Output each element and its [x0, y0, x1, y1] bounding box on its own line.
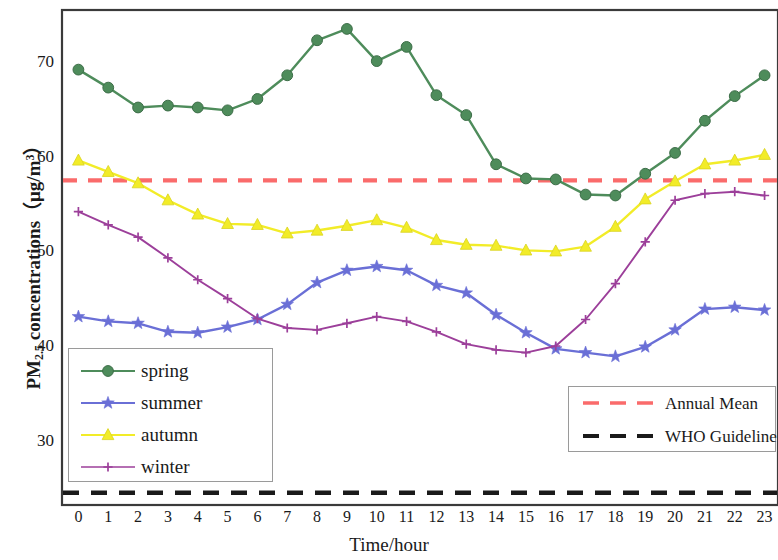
data-point: [372, 312, 381, 321]
data-point: [430, 279, 443, 291]
data-point: [162, 325, 175, 337]
data-point: [461, 110, 472, 121]
data-point: [432, 327, 441, 336]
legend-item-winter[interactable]: winter: [69, 451, 272, 483]
data-point: [639, 193, 651, 204]
legend-item-spring[interactable]: spring: [69, 355, 272, 387]
data-point: [730, 187, 739, 196]
x-tick-label: 11: [392, 508, 422, 526]
series-autumn: [73, 148, 771, 256]
data-point: [341, 264, 354, 276]
data-point: [550, 174, 561, 185]
data-point: [132, 317, 145, 329]
x-tick-label: 22: [720, 508, 750, 526]
x-tick-label: 2: [123, 508, 153, 526]
y-tick-label: 60: [14, 148, 54, 165]
data-point: [579, 346, 592, 358]
legend-item-summer[interactable]: summer: [69, 387, 272, 419]
y-tick-label: 40: [14, 337, 54, 354]
data-point: [462, 340, 471, 349]
x-tick-label: 6: [242, 508, 272, 526]
series-summer: [72, 260, 771, 362]
data-point: [580, 189, 591, 200]
x-tick-label: 19: [630, 508, 660, 526]
x-tick-label: 10: [362, 508, 392, 526]
x-tick-label: 9: [332, 508, 362, 526]
data-point: [700, 115, 711, 126]
legend-dashed-line-icon: [579, 389, 665, 419]
data-point: [103, 366, 114, 377]
data-point: [102, 396, 115, 408]
x-tick-label: 1: [93, 508, 123, 526]
x-tick-label: 13: [451, 508, 481, 526]
series-line-winter: [78, 192, 764, 353]
x-tick-label: 7: [272, 508, 302, 526]
x-tick-label: 16: [541, 508, 571, 526]
legend-label: spring: [141, 361, 189, 381]
data-point: [640, 168, 651, 179]
data-point: [521, 173, 532, 184]
data-point: [283, 323, 292, 332]
data-point: [192, 102, 203, 113]
pm25-diurnal-chart: PM2.5 concentrations（μg/m3） 7060504030 0…: [0, 0, 778, 560]
data-point: [729, 91, 740, 102]
legend-item-autumn[interactable]: autumn: [69, 419, 272, 451]
data-point: [700, 189, 709, 198]
data-point: [103, 82, 114, 93]
x-tick-label: 0: [63, 508, 93, 526]
data-point: [282, 70, 293, 81]
legend-item-annual-mean[interactable]: Annual Mean: [569, 387, 775, 420]
data-point: [72, 310, 85, 322]
legend-label: summer: [141, 393, 202, 413]
data-point: [759, 70, 770, 81]
x-tick-label: 15: [511, 508, 541, 526]
legend-label: winter: [141, 457, 190, 477]
data-point: [760, 191, 769, 200]
legend-marker-plus-icon: [75, 452, 141, 482]
data-point: [312, 35, 323, 46]
data-point: [162, 194, 174, 205]
legend-marker-circle-icon: [75, 356, 141, 386]
legend-label: autumn: [141, 425, 198, 445]
x-tick-label: 21: [690, 508, 720, 526]
data-point: [222, 105, 233, 116]
legend-item-who-guideline[interactable]: WHO Guideline: [569, 420, 775, 453]
x-tick-label: 3: [153, 508, 183, 526]
data-point: [491, 345, 500, 354]
data-point: [104, 220, 113, 229]
series-line-spring: [78, 29, 764, 196]
data-point: [102, 315, 115, 327]
data-point: [639, 340, 652, 352]
data-point: [103, 462, 112, 471]
data-point: [371, 214, 383, 225]
data-point: [609, 350, 622, 362]
y-axis-tick-labels: 7060504030: [10, 0, 54, 560]
legend-marker-triangle-icon: [75, 420, 141, 450]
data-point: [491, 159, 502, 170]
x-tick-label: 20: [660, 508, 690, 526]
x-tick-label: 23: [750, 508, 778, 526]
data-point: [728, 301, 741, 313]
data-point: [342, 319, 351, 328]
data-point: [74, 207, 83, 216]
data-point: [163, 100, 174, 111]
data-point: [580, 240, 592, 251]
data-point: [402, 317, 411, 326]
data-point: [431, 90, 442, 101]
series-legend: springsummerautumnwinter: [68, 348, 273, 482]
data-point: [73, 64, 84, 75]
data-point: [252, 94, 263, 105]
data-point: [133, 102, 144, 113]
y-tick-label: 70: [14, 53, 54, 70]
data-point: [670, 148, 681, 159]
data-point: [73, 154, 85, 165]
x-tick-label: 18: [600, 508, 630, 526]
reference-line-legend: Annual MeanWHO Guideline: [568, 386, 776, 452]
legend-marker-star-icon: [75, 388, 141, 418]
data-point: [610, 190, 621, 201]
series-line-autumn: [78, 155, 764, 252]
legend-label: WHO Guideline: [665, 427, 777, 447]
data-point: [521, 348, 530, 357]
x-tick-label: 17: [571, 508, 601, 526]
data-point: [758, 303, 771, 315]
